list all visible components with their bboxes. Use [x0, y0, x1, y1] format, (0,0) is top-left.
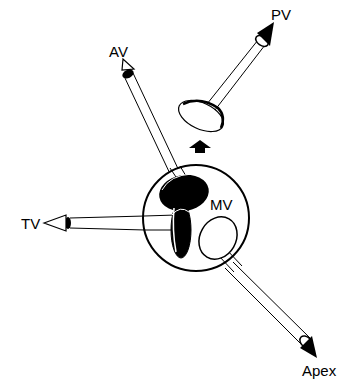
heart-valve-axes-diagram: AV PV TV MV Apex [0, 0, 351, 382]
tv-arrowhead-icon [44, 215, 66, 231]
up-arrow-icon [189, 140, 211, 153]
label-pv: PV [271, 6, 291, 23]
label-av: AV [109, 43, 128, 60]
tv-axis [44, 215, 145, 231]
av-axis [121, 59, 181, 178]
label-mv: MV [210, 196, 233, 213]
av-arrowhead-icon [122, 59, 134, 70]
label-tv: TV [21, 215, 40, 232]
apex-axis [225, 262, 317, 358]
label-apex: Apex [302, 362, 337, 379]
pv-axis [174, 22, 274, 138]
